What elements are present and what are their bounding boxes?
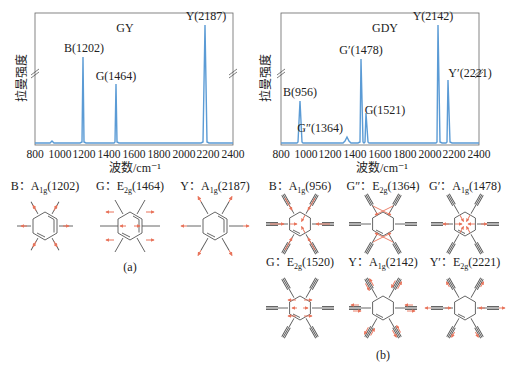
svg-text:1200: 1200 — [319, 148, 342, 160]
svg-text:1800: 1800 — [394, 148, 417, 160]
molecule-gy-b-mode — [17, 202, 73, 250]
panel-caption-b: (b) — [376, 348, 390, 362]
x-axis-label: 波数/cm⁻¹ — [356, 160, 408, 175]
chart-gdy: GDY B(956) G″(1364) G′(1478) G(1521) Y(2… — [258, 9, 492, 175]
peak-label: Y′(2221) — [448, 66, 491, 80]
peak-label: Y(2142) — [413, 9, 454, 23]
mode-label: B：A1g(1202) — [11, 179, 80, 195]
x-ticks-gdy: 800 1000 1200 1400 1600 1800 2000 2200 2… — [272, 148, 490, 160]
mode-labels-a: B：A1g(1202) G：E2g(1464) Y：A1g(2187) — [11, 179, 250, 195]
mode-label: Y′：E2g(2221) — [430, 255, 501, 271]
panel-caption-a: (a) — [123, 260, 136, 274]
mode-label: B：A1g(956) — [269, 179, 332, 195]
peak-label: B(956) — [283, 85, 317, 99]
svg-text:1400: 1400 — [344, 148, 367, 160]
svg-text:1200: 1200 — [73, 148, 96, 160]
svg-text:1600: 1600 — [123, 148, 146, 160]
svg-text:2400: 2400 — [222, 148, 245, 160]
molecule-gy-g-mode — [100, 200, 160, 252]
peak-label: B(1202) — [64, 41, 104, 55]
mode-label: Y：A1g(2142) — [348, 255, 417, 271]
mode-label: G″：E2g(1364) — [346, 179, 419, 195]
mode-label: Y：A1g(2187) — [180, 179, 249, 195]
peak-label: G(1464) — [96, 69, 137, 83]
svg-text:800: 800 — [272, 148, 290, 160]
molecule-gy-y-mode — [181, 197, 249, 256]
mode-label: G：E2g(1520) — [266, 255, 334, 271]
svg-text:1600: 1600 — [369, 148, 392, 160]
molecule-gdy-y2-mode — [425, 278, 505, 338]
y-axis-label: 拉曼强度 — [258, 54, 273, 102]
molecule-gdy-g-mode — [266, 278, 334, 338]
svg-text:2000: 2000 — [419, 148, 442, 160]
mode-label: G′：A1g(1478) — [429, 179, 501, 195]
mode-labels-b: B：A1g(956) G″：E2g(1364) G′：A1g(1478) G：E… — [266, 179, 501, 271]
svg-text:800: 800 — [26, 148, 44, 160]
peak-label: G″(1364) — [297, 121, 343, 135]
x-axis-label: 波数/cm⁻¹ — [109, 160, 161, 175]
x-ticks-gy: 800 1000 1200 1400 1600 1800 2000 2200 2… — [26, 148, 244, 160]
chart-gy-title: GY — [116, 21, 134, 35]
svg-text:1400: 1400 — [98, 148, 121, 160]
svg-text:2200: 2200 — [197, 148, 220, 160]
chart-gy: GY B(1202) G(1464) Y(2187) 800 1000 1200… — [14, 9, 245, 175]
figure-canvas: GY B(1202) G(1464) Y(2187) 800 1000 1200… — [0, 0, 516, 376]
y-axis-label: 拉曼强度 — [14, 54, 29, 102]
peak-label: Y(2187) — [186, 9, 227, 23]
svg-text:1000: 1000 — [295, 148, 318, 160]
peak-label: G(1521) — [365, 103, 406, 117]
svg-text:1000: 1000 — [49, 148, 72, 160]
mode-label: G：E2g(1464) — [96, 179, 164, 195]
peak-label: G′(1478) — [339, 43, 382, 57]
molecule-gdy-b-mode — [266, 194, 334, 254]
svg-text:2000: 2000 — [173, 148, 196, 160]
svg-text:2200: 2200 — [443, 148, 466, 160]
molecule-gdy-g1-mode — [431, 194, 499, 254]
svg-text:1800: 1800 — [148, 148, 171, 160]
svg-text:2400: 2400 — [468, 148, 491, 160]
molecule-gdy-g2-mode — [349, 194, 417, 254]
molecule-gdy-y-mode — [349, 278, 417, 338]
chart-gdy-title: GDY — [372, 21, 398, 35]
